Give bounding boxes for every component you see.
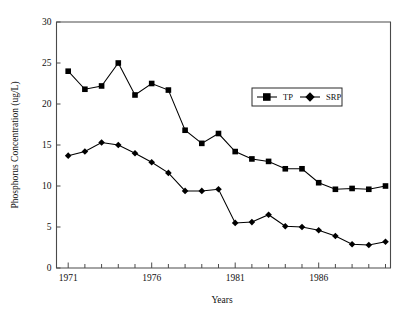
legend-label-srp: SRP <box>326 92 341 102</box>
data-point-tp <box>282 166 288 172</box>
y-tick-label: 30 <box>42 17 52 27</box>
data-point-tp <box>316 180 322 186</box>
y-tick-label: 20 <box>42 99 52 109</box>
data-point-tp <box>65 68 71 74</box>
data-point-tp <box>333 186 339 192</box>
chart-background <box>0 0 410 314</box>
data-point-tp <box>266 159 272 165</box>
data-point-tp <box>249 156 255 162</box>
x-axis-title: Years <box>211 295 233 305</box>
y-tick-label: 0 <box>47 263 52 273</box>
data-point-tp <box>216 131 222 137</box>
y-tick-label: 10 <box>42 181 52 191</box>
data-point-tp <box>82 86 88 92</box>
chart-legend: TP SRP <box>252 88 342 106</box>
y-tick-label: 5 <box>47 222 52 232</box>
data-point-tp <box>349 186 355 192</box>
chart-figure: 051015202530 1971197619811986 Phosphorus… <box>0 0 410 314</box>
y-tick-label: 25 <box>42 58 52 68</box>
y-axis-title: Phosphorus Concentration (ug/L) <box>10 81 21 208</box>
data-point-tp <box>182 127 188 133</box>
phosphorus-concentration-line-chart: 051015202530 1971197619811986 Phosphorus… <box>0 0 410 314</box>
data-point-tp <box>383 183 389 189</box>
data-point-tp <box>99 83 105 89</box>
data-point-tp <box>199 141 205 147</box>
data-point-tp <box>149 81 155 87</box>
data-point-tp <box>366 186 372 192</box>
x-tick-label: 1971 <box>59 273 78 283</box>
data-point-tp <box>115 60 121 66</box>
data-point-tp <box>299 166 305 172</box>
legend-label-tp: TP <box>283 92 293 102</box>
x-tick-label: 1981 <box>226 273 245 283</box>
data-point-tp <box>232 149 238 155</box>
x-tick-label: 1976 <box>142 273 161 283</box>
data-point-tp <box>166 87 172 93</box>
data-point-tp <box>132 92 138 98</box>
x-tick-label: 1986 <box>309 273 328 283</box>
legend-marker-tp <box>263 93 271 101</box>
y-tick-label: 15 <box>42 140 52 150</box>
